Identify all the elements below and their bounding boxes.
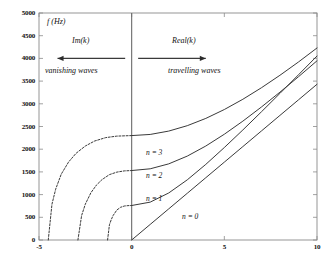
y-tick-label: 1000 xyxy=(6,191,35,199)
y-axis-title: f (Hz) xyxy=(47,17,65,26)
figure-root: 0500100015002000250030003500400045005000… xyxy=(0,0,336,262)
dispersion-chart xyxy=(0,0,336,262)
y-tick-label: 2000 xyxy=(6,145,35,153)
curve-label-0: n = 3 xyxy=(146,148,162,157)
y-tick-label: 3500 xyxy=(6,77,35,85)
y-tick-label: 4000 xyxy=(6,54,35,62)
curve-n-1-evanescent- xyxy=(108,206,132,241)
plot-frame xyxy=(39,13,317,240)
im-k-label: Im(k) xyxy=(72,36,89,45)
y-tick-label: 500 xyxy=(6,213,35,221)
y-tick-label: 4500 xyxy=(6,32,35,40)
curve-n-3-evanescent- xyxy=(48,136,131,240)
curve-label-2: n = 1 xyxy=(146,194,162,203)
x-tick-label: 10 xyxy=(307,243,327,251)
y-tick-label: 2500 xyxy=(6,123,35,131)
x-tick-label: 0 xyxy=(122,243,142,251)
y-tick-label: 3000 xyxy=(6,100,35,108)
curve-label-3: n = 0 xyxy=(182,212,198,221)
x-tick-label: -5 xyxy=(29,243,49,251)
travelling-arrow-head xyxy=(200,56,206,61)
curve-label-1: n = 2 xyxy=(146,171,162,180)
vanishing-waves-label: vanishing waves xyxy=(45,66,98,75)
curve-n-2-evanescent- xyxy=(78,171,132,240)
real-k-label: Real(k) xyxy=(172,36,196,45)
y-tick-label: 5000 xyxy=(6,9,35,17)
travelling-waves-label: travelling waves xyxy=(168,66,221,75)
y-tick-label: 1500 xyxy=(6,168,35,176)
curve-n-0 xyxy=(132,84,317,240)
x-tick-label: 5 xyxy=(214,243,234,251)
curve-n-1 xyxy=(132,56,317,205)
vanishing-arrow-head xyxy=(58,56,64,61)
curve-n-3 xyxy=(132,48,317,136)
